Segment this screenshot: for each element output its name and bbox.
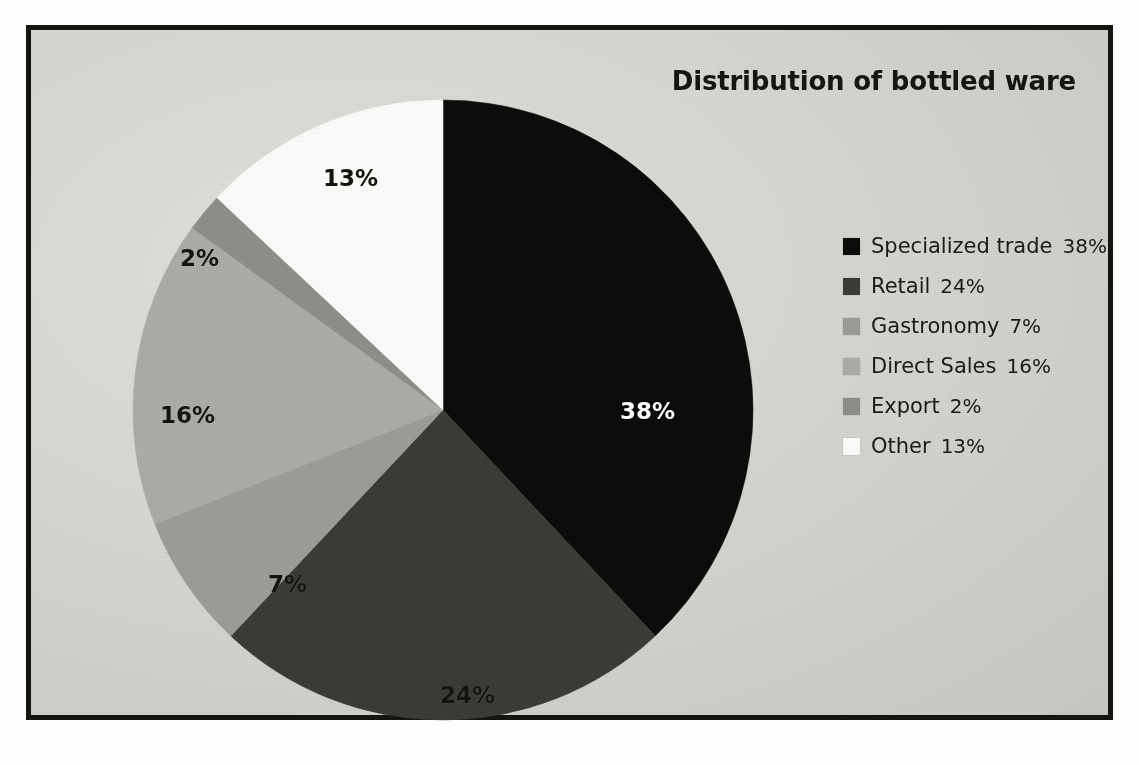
legend-item-label: Direct Sales xyxy=(871,354,996,378)
legend-item-value: 2% xyxy=(950,394,982,418)
legend-color-swatch-icon xyxy=(843,278,860,295)
pie-slice-value-label: 24% xyxy=(440,682,495,708)
legend-item-value: 13% xyxy=(941,434,985,458)
legend-item-label: Export xyxy=(871,394,940,418)
legend-item-label: Gastronomy xyxy=(871,314,999,338)
legend-item[interactable]: Specialized trade38% xyxy=(843,226,1139,266)
legend-item[interactable]: Gastronomy7% xyxy=(843,306,1139,346)
legend-color-swatch-icon xyxy=(843,438,860,455)
chart-legend: Specialized trade38%Retail24%Gastronomy7… xyxy=(843,226,1139,466)
legend-item-label: Specialized trade xyxy=(871,234,1052,258)
legend-color-swatch-icon xyxy=(843,358,860,375)
pie-slice-value-label: 7% xyxy=(268,571,307,597)
chart-frame: Distribution of bottled ware 38%24%7%16%… xyxy=(26,25,1113,720)
chart-plot-area: Distribution of bottled ware 38%24%7%16%… xyxy=(31,30,1108,715)
legend-item[interactable]: Direct Sales16% xyxy=(843,346,1139,386)
legend-color-swatch-icon xyxy=(843,238,860,255)
legend-item[interactable]: Export2% xyxy=(843,386,1139,426)
legend-item-value: 24% xyxy=(940,274,984,298)
screenshot-page: Distribution of bottled ware 38%24%7%16%… xyxy=(0,0,1139,765)
pie-slice-value-label: 13% xyxy=(323,165,378,191)
legend-item[interactable]: Retail24% xyxy=(843,266,1139,306)
pie-slice-value-label: 2% xyxy=(180,245,219,271)
legend-color-swatch-icon xyxy=(843,398,860,415)
legend-item-label: Retail xyxy=(871,274,930,298)
legend-item-value: 38% xyxy=(1062,234,1106,258)
pie-slice-value-label: 38% xyxy=(620,398,675,424)
legend-item[interactable]: Other13% xyxy=(843,426,1139,466)
legend-item-label: Other xyxy=(871,434,931,458)
legend-item-value: 7% xyxy=(1009,314,1041,338)
legend-color-swatch-icon xyxy=(843,318,860,335)
legend-item-value: 16% xyxy=(1006,354,1050,378)
pie-slice-value-label: 16% xyxy=(160,402,215,428)
pie-chart: 38%24%7%16%2%13% xyxy=(123,90,763,730)
